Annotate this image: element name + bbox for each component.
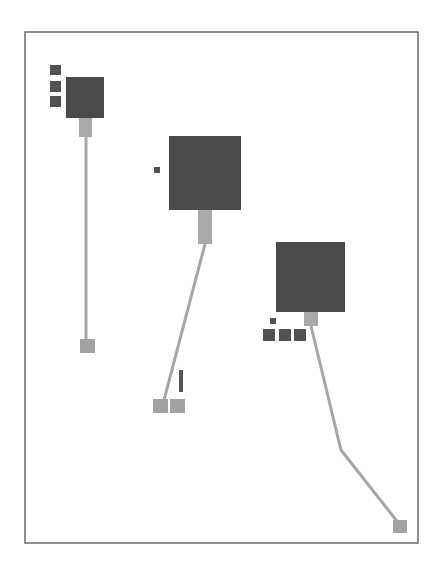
node-groups	[50, 65, 407, 533]
main-node	[169, 136, 241, 210]
small-node	[50, 81, 61, 92]
small-node	[294, 329, 306, 341]
node-connector	[198, 210, 212, 244]
node-connector	[304, 312, 318, 326]
endpoint-node	[393, 520, 407, 533]
small-node	[279, 329, 291, 341]
connection-line	[311, 326, 400, 525]
figure-marker	[179, 370, 183, 392]
main-node	[276, 242, 345, 312]
diagram-canvas	[0, 0, 445, 563]
main-node	[66, 77, 104, 118]
small-node	[154, 167, 160, 173]
endpoint-node	[80, 339, 95, 353]
group-3	[263, 242, 407, 533]
node-connector	[79, 118, 92, 137]
connection-line	[164, 244, 205, 400]
group-2	[153, 136, 241, 413]
small-node	[270, 318, 276, 324]
small-node	[50, 96, 61, 107]
endpoint-node	[153, 399, 168, 413]
small-node	[263, 329, 275, 341]
endpoint-node	[170, 399, 185, 413]
group-1	[50, 65, 104, 353]
small-node	[50, 65, 61, 75]
